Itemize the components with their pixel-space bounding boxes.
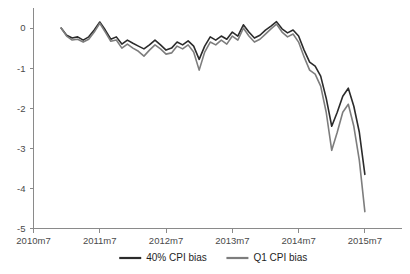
x-axis-ticks: 2010m72011m72012m72013m72014m72015m7 [16,229,382,246]
y-tick-label: -2 [17,103,25,114]
x-tick-label: 2015m7 [348,235,382,246]
y-tick-label: -5 [17,223,25,234]
x-tick-label: 2011m7 [83,235,117,246]
y-tick-label: -3 [17,143,25,154]
y-tick-label: -4 [17,183,25,194]
series-line-1 [61,22,365,175]
series-line-2 [61,23,365,211]
legend-label: Q1 CPI bias [253,252,307,263]
chart-container: 0-1-2-3-4-5 2010m72011m72012m72013m72014… [0,0,410,274]
x-tick-label: 2013m7 [215,235,249,246]
y-tick-label: -1 [17,63,25,74]
y-tick-label: 0 [20,22,25,33]
y-axis-ticks: 0-1-2-3-4-5 [17,22,33,233]
line-chart: 0-1-2-3-4-5 2010m72011m72012m72013m72014… [0,0,410,274]
legend-label: 40% CPI bias [146,252,207,263]
series-lines [61,22,365,212]
x-tick-label: 2014m7 [281,235,315,246]
chart-legend: 40% CPI biasQ1 CPI bias [119,252,307,263]
x-tick-label: 2012m7 [149,235,183,246]
x-tick-label: 2010m7 [16,235,50,246]
